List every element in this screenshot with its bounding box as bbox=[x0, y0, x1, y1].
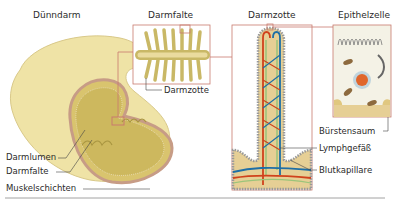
label-darmfalte: Darmfalte bbox=[6, 167, 49, 176]
label-blutkapillare: Blutkapillare bbox=[319, 166, 372, 175]
intestinal-fold-illustration bbox=[133, 25, 210, 84]
label-darmzotte: Darmzotte bbox=[164, 86, 209, 95]
epithelial-cell-illustration bbox=[333, 25, 391, 117]
label-darmlumen: Darmlumen bbox=[6, 153, 56, 162]
label-muskelschichten: Muskelschichten bbox=[6, 184, 76, 193]
panel-title-darmfalte: Darmfalte bbox=[148, 11, 193, 20]
panel-title-epithelzelle: Epithelzelle bbox=[338, 11, 390, 20]
panel-title-duenndarm: Dünndarm bbox=[33, 11, 81, 20]
panel-title-darmzotte: Darmzotte bbox=[248, 11, 296, 20]
label-lymphgefaess: Lymphgefäß bbox=[319, 144, 371, 153]
label-buerstensaum: Bürstensaum bbox=[319, 127, 375, 136]
